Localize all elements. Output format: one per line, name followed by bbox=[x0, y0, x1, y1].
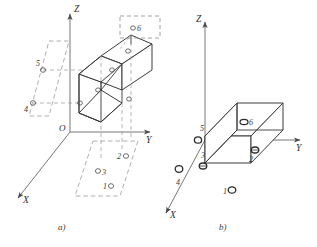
panel-b-marker-2-label: 2 bbox=[249, 155, 253, 164]
panel-b-marker-1-label: 1 bbox=[223, 187, 227, 196]
panel-a-marker-2: 2 bbox=[117, 152, 129, 161]
panel-b-x-axis bbox=[166, 140, 205, 213]
panel-a-x-label: X bbox=[22, 195, 30, 205]
panel-a: Z Y X O 5 4 bbox=[18, 4, 160, 205]
panel-a-caption: a) bbox=[58, 222, 66, 232]
panel-b-y-label: Y bbox=[296, 143, 303, 153]
panel-a-marker-1: 1 bbox=[103, 182, 114, 191]
svg-text:4: 4 bbox=[24, 105, 28, 114]
panel-a-marker-3: 3 bbox=[95, 168, 106, 177]
panel-a-z-label: Z bbox=[74, 4, 80, 14]
panel-a-origin-label: O bbox=[59, 123, 66, 133]
panel-b-marker-6-label: 6 bbox=[249, 118, 253, 127]
panel-b-z-label: Z bbox=[196, 14, 202, 24]
panel-b-marker-4-label: 4 bbox=[176, 178, 180, 187]
panel-b-marker-1: 1 bbox=[223, 187, 236, 196]
panel-a-y-label: Y bbox=[146, 135, 153, 145]
panel-b-x-label: X bbox=[169, 210, 177, 220]
technical-drawing: Z Y X O 5 4 bbox=[0, 0, 317, 247]
svg-text:5: 5 bbox=[36, 59, 40, 68]
svg-text:1: 1 bbox=[103, 182, 107, 191]
panel-b-marker-3-label: 3 bbox=[200, 151, 205, 160]
panel-b-marker-5: 5 bbox=[194, 124, 204, 143]
panel-a-x-axis bbox=[18, 132, 70, 198]
panel-b: Z Y X O 6 5 bbox=[166, 14, 303, 220]
figure-canvas: Z Y X O 5 4 bbox=[0, 0, 317, 247]
panel-b-marker-5-label: 5 bbox=[200, 124, 204, 133]
svg-text:3: 3 bbox=[101, 168, 106, 177]
panel-b-caption: b) bbox=[219, 222, 227, 232]
svg-text:2: 2 bbox=[117, 152, 121, 161]
panel-a-callout-6-label: 6 bbox=[137, 24, 141, 33]
